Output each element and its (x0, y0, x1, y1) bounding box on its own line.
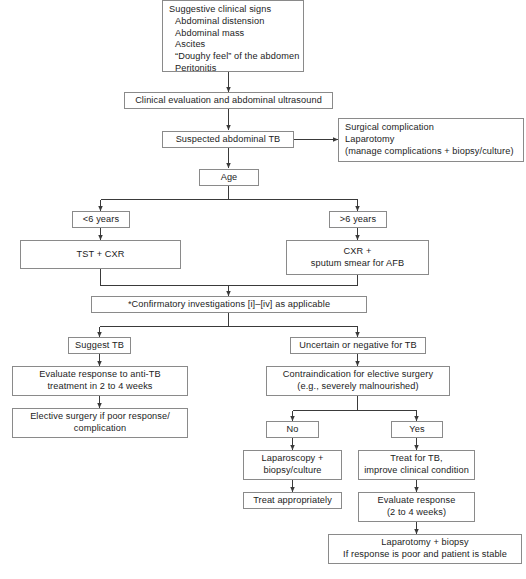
signs-line-1: Suggestive clinical signs (169, 4, 271, 16)
treat-appropriately-label: Treat appropriately (253, 495, 332, 507)
treat-for-tb-line-2: improve clinical condition (364, 465, 469, 477)
node-confirmatory-investigations: *Confirmatory investigations [i]–[iv] as… (91, 296, 367, 313)
elective-surgery-line-1: Elective surgery if poor response/ (30, 411, 170, 423)
treat-for-tb-line-1: Treat for TB, (390, 453, 442, 465)
node-laparoscopy-biopsy-culture: Laparoscopy + biopsy/culture (243, 450, 342, 480)
surgical-complication-line-1: Surgical complication (345, 122, 434, 134)
evaluate-anti-tb-line-1: Evaluate response to anti-TB (39, 369, 160, 381)
node-treat-appropriately: Treat appropriately (243, 492, 342, 509)
age-label: Age (221, 172, 238, 184)
age-over-6-label: >6 years (340, 214, 376, 226)
branch-no-label: No (287, 424, 299, 436)
laparotomy-biopsy-line-1: Laparotomy + biopsy (381, 537, 468, 549)
signs-line-3: Abdominal mass (169, 28, 244, 40)
evaluate-anti-tb-line-2: treatment in 2 to 4 weeks (47, 381, 152, 393)
node-laparotomy-biopsy: Laparotomy + biopsy If response is poor … (328, 534, 522, 564)
contraindication-line-1: Contraindication for elective surgery (283, 369, 433, 381)
evaluate-response-line-2: (2 to 4 weeks) (387, 507, 446, 519)
laparoscopy-line-1: Laparoscopy + (262, 453, 324, 465)
signs-line-5: “Doughy feel” of the abdomen (169, 51, 299, 63)
tst-cxr-label: TST + CXR (77, 249, 125, 261)
node-suspected-abdominal-tb: Suspected abdominal TB (162, 131, 294, 148)
node-suggestive-clinical-signs: Suggestive clinical signs Abdominal dist… (162, 0, 304, 72)
node-uncertain-or-negative-tb: Uncertain or negative for TB (290, 337, 426, 354)
node-cxr-sputum-smear: CXR + sputum smear for AFB (286, 240, 429, 275)
signs-line-6: Peritonitis (169, 63, 216, 75)
node-contraindication-elective-surgery: Contraindication for elective surgery (e… (266, 366, 450, 396)
surgical-complication-line-3: (manage complications + biopsy/culture) (345, 146, 514, 158)
laparotomy-biopsy-line-2: If response is poor and patient is stabl… (343, 549, 507, 561)
node-age: Age (199, 169, 259, 186)
node-clinical-evaluation: Clinical evaluation and abdominal ultras… (124, 92, 333, 109)
node-age-under-6: <6 years (72, 211, 130, 228)
node-branch-no: No (266, 421, 319, 438)
node-branch-yes: Yes (391, 421, 443, 438)
surgical-complication-line-2: Laparotomy (345, 134, 395, 146)
suspected-abdominal-tb-label: Suspected abdominal TB (176, 134, 281, 146)
contraindication-line-2: (e.g., severely malnourished) (297, 381, 418, 393)
node-tst-cxr: TST + CXR (20, 240, 181, 269)
abdominal-tb-flowchart: Suggestive clinical signs Abdominal dist… (0, 0, 526, 579)
node-evaluate-response-anti-tb: Evaluate response to anti-TB treatment i… (12, 366, 188, 396)
signs-line-4: Ascites (169, 39, 205, 51)
age-under-6-label: <6 years (83, 214, 119, 226)
node-elective-surgery: Elective surgery if poor response/ compl… (12, 408, 188, 438)
signs-line-2: Abdominal distension (169, 16, 264, 28)
cxr-sputum-line-1: CXR + (344, 246, 372, 258)
node-treat-for-tb: Treat for TB, improve clinical condition (358, 450, 475, 480)
clinical-evaluation-label: Clinical evaluation and abdominal ultras… (135, 95, 322, 107)
uncertain-tb-label: Uncertain or negative for TB (299, 340, 417, 352)
laparoscopy-line-2: biopsy/culture (263, 465, 321, 477)
node-age-over-6: >6 years (329, 211, 387, 228)
suggest-tb-label: Suggest TB (75, 340, 124, 352)
elective-surgery-line-2: complication (74, 423, 126, 435)
node-evaluate-response: Evaluate response (2 to 4 weeks) (358, 492, 475, 522)
branch-yes-label: Yes (409, 424, 424, 436)
node-surgical-complication: Surgical complication Laparotomy (manage… (338, 118, 524, 162)
confirmatory-investigations-label: *Confirmatory investigations [i]–[iv] as… (128, 299, 330, 311)
cxr-sputum-line-2: sputum smear for AFB (311, 258, 404, 270)
node-suggest-tb: Suggest TB (68, 337, 131, 354)
evaluate-response-line-1: Evaluate response (378, 495, 456, 507)
